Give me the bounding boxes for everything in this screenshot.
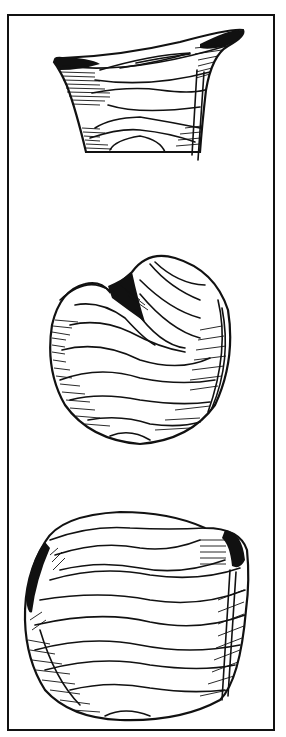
vessel-top-illustration (54, 30, 244, 160)
vessel-bottom-illustration (25, 512, 248, 720)
figure-illustration (0, 0, 286, 737)
vessel-middle-illustration (50, 256, 230, 444)
